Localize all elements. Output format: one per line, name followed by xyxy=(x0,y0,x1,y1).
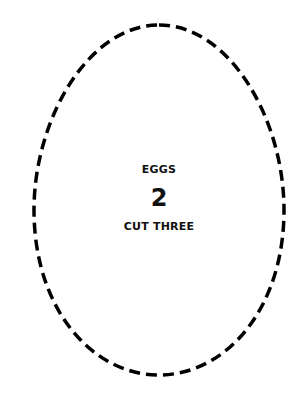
egg-title: EGGS xyxy=(0,163,307,176)
cut-instruction: CUT THREE xyxy=(0,220,307,233)
egg-count: 2 xyxy=(0,184,307,212)
